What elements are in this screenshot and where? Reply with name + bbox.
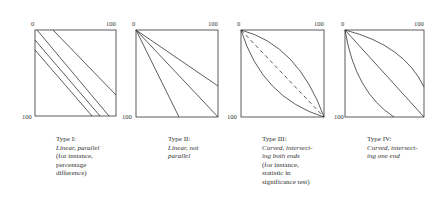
axis-max-label: 100 bbox=[208, 20, 218, 27]
caption-desc: ing one end bbox=[367, 152, 437, 161]
caption-desc: Curved, intersect- bbox=[367, 144, 437, 153]
panel-type-i bbox=[35, 30, 116, 116]
caption-desc: Linear, not bbox=[168, 144, 238, 153]
axis-max-label: 100 bbox=[106, 20, 116, 27]
caption-note: significance test) bbox=[262, 178, 332, 187]
caption-note: (for instance, bbox=[262, 161, 332, 170]
axis-side-max-label: 100 bbox=[334, 113, 344, 120]
caption-title: Type III: bbox=[262, 135, 332, 144]
axis-min-label: 0 bbox=[31, 20, 34, 27]
axis-max-label: 100 bbox=[314, 20, 324, 27]
caption-note: percentage bbox=[56, 161, 126, 170]
caption-title: Type IV: bbox=[367, 135, 437, 144]
axis-side-max-label: 100 bbox=[227, 113, 237, 120]
panel-type-iii bbox=[241, 30, 324, 117]
box-type-i bbox=[35, 30, 116, 116]
axis-side-max-label: 100 bbox=[22, 113, 32, 120]
caption-desc: parallel bbox=[168, 152, 238, 161]
caption-type-i: Type I: Linear, parallel (for instance, … bbox=[56, 135, 126, 178]
caption-desc: ing both ends bbox=[262, 152, 332, 161]
caption-title: Type II: bbox=[168, 135, 238, 144]
caption-desc: Curved, intersect- bbox=[262, 144, 332, 153]
caption-desc: Linear, parallel bbox=[56, 144, 126, 153]
box-type-iii bbox=[241, 30, 324, 117]
caption-type-iv: Type IV: Curved, intersect- ing one end bbox=[367, 135, 437, 161]
caption-note: (for instance, bbox=[56, 152, 126, 161]
panel-type-iv bbox=[345, 30, 424, 117]
caption-type-iii: Type III: Curved, intersect- ing both en… bbox=[262, 135, 332, 187]
axis-min-label: 0 bbox=[341, 20, 344, 27]
axis-side-max-label: 100 bbox=[122, 113, 132, 120]
panel-type-ii bbox=[136, 30, 218, 117]
axis-min-label: 0 bbox=[237, 20, 240, 27]
caption-note: statistic in bbox=[262, 169, 332, 178]
caption-note: difference) bbox=[56, 169, 126, 178]
axis-max-label: 100 bbox=[414, 20, 424, 27]
axis-min-label: 0 bbox=[132, 20, 135, 27]
caption-type-ii: Type II: Linear, not parallel bbox=[168, 135, 238, 161]
caption-title: Type I: bbox=[56, 135, 126, 144]
